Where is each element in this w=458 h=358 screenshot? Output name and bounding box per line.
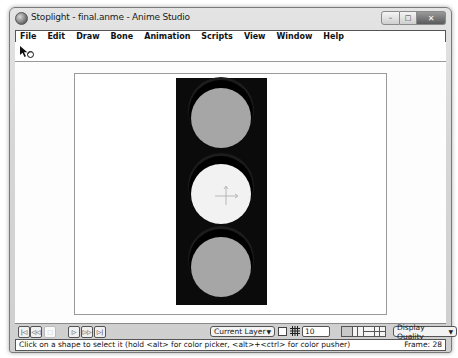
display-quality-value: Display Quality — [397, 323, 448, 341]
select-shape-arrow-icon[interactable] — [19, 45, 35, 59]
quad-view-button[interactable] — [374, 326, 386, 337]
menu-edit[interactable]: Edit — [43, 32, 69, 41]
playback-control-bar: |◁ ◁◁ □ ▷ ▷▷ ▷| Current Layer ▼ 10 Displ… — [15, 326, 446, 338]
tool-options-bar — [15, 42, 446, 62]
canvas-workspace[interactable] — [15, 62, 446, 324]
menu-draw[interactable]: Draw — [72, 32, 103, 41]
minimize-button[interactable]: – — [381, 11, 400, 25]
status-message: Click on a shape to select it (hold <alt… — [19, 340, 350, 350]
display-quality-dropdown[interactable]: Display Quality ▼ — [393, 326, 457, 337]
stoplight-body[interactable] — [176, 78, 267, 305]
menu-file[interactable]: File — [16, 32, 40, 41]
camera-frame — [74, 73, 387, 315]
layer-scope-value: Current Layer — [214, 327, 265, 336]
chevron-down-icon: ▼ — [266, 327, 271, 336]
bottom-lamp-shape[interactable] — [191, 237, 251, 297]
maximize-button[interactable]: □ — [400, 11, 417, 25]
rewind-to-start-button[interactable]: |◁ — [18, 326, 30, 338]
frame-counter: Frame: 28 — [404, 340, 442, 350]
layer-scope-dropdown[interactable]: Current Layer ▼ — [210, 326, 275, 337]
step-back-button[interactable]: ◁◁ — [30, 326, 42, 338]
menu-view[interactable]: View — [240, 32, 270, 41]
move-crosshair-icon — [214, 186, 238, 206]
status-bar: Click on a shape to select it (hold <alt… — [15, 339, 446, 351]
middle-lamp-shape[interactable] — [191, 164, 251, 224]
stop-button[interactable]: □ — [44, 326, 56, 338]
top-lamp-shape[interactable] — [191, 88, 251, 148]
grid-size-input[interactable]: 10 — [302, 326, 330, 337]
grid-icon — [290, 326, 300, 336]
app-icon — [15, 12, 28, 25]
play-button[interactable]: ▷ — [68, 326, 80, 338]
grid-toggle-checkbox[interactable] — [278, 327, 287, 336]
menu-animation[interactable]: Animation — [140, 32, 194, 41]
forward-to-end-button[interactable]: ▷| — [94, 326, 106, 338]
title-bar[interactable]: Stoplight - final.anme - Anime Studio – … — [10, 8, 451, 30]
step-forward-button[interactable]: ▷▷ — [81, 326, 93, 338]
app-window: Stoplight - final.anme - Anime Studio – … — [9, 7, 452, 353]
chevron-down-icon: ▼ — [448, 327, 453, 336]
menu-window[interactable]: Window — [272, 32, 316, 41]
menu-scripts[interactable]: Scripts — [197, 32, 237, 41]
window-title: Stoplight - final.anme - Anime Studio — [31, 12, 190, 22]
window-controls: – □ ✕ — [381, 11, 446, 25]
menu-help[interactable]: Help — [319, 32, 348, 41]
menu-bone[interactable]: Bone — [107, 32, 138, 41]
close-button[interactable]: ✕ — [417, 11, 446, 25]
